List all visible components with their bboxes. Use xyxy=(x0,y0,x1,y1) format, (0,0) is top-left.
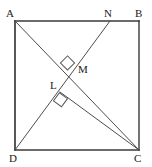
inner-segments xyxy=(15,21,139,150)
geometry-figure: A B C D N M L xyxy=(0,0,152,167)
segment-AC xyxy=(15,21,139,150)
vertex-label-B: B xyxy=(135,8,142,19)
point-label-N: N xyxy=(104,8,112,19)
segment-DN xyxy=(15,21,110,150)
point-label-M: M xyxy=(78,64,88,75)
vertex-label-C: C xyxy=(134,153,141,164)
vertex-label-A: A xyxy=(6,8,14,19)
right-angle-mark-M xyxy=(60,56,74,70)
figure-canvas xyxy=(0,0,152,167)
point-label-L: L xyxy=(50,80,57,91)
vertex-label-D: D xyxy=(9,153,17,164)
segment-LC xyxy=(60,92,139,150)
